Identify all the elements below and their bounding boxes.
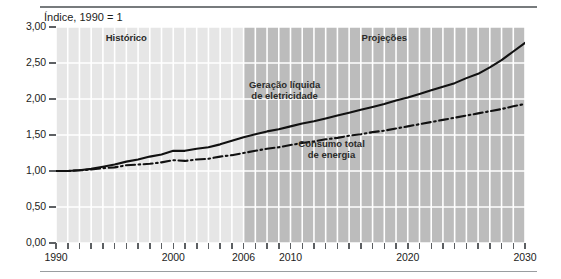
x-tick-mark bbox=[114, 243, 116, 249]
x-tick-mark bbox=[524, 243, 526, 249]
x-tick-label: 2006 bbox=[222, 251, 266, 263]
x-tick-mark bbox=[442, 243, 444, 249]
x-tick-mark bbox=[137, 243, 139, 249]
x-tick-mark bbox=[126, 243, 128, 249]
x-tick-mark bbox=[325, 243, 327, 249]
x-tick-mark bbox=[173, 243, 175, 249]
y-tick-label: 0,00 bbox=[16, 236, 46, 248]
y-tick-label: 2,00 bbox=[16, 92, 46, 104]
x-tick-mark bbox=[454, 243, 456, 249]
x-tick-mark bbox=[243, 243, 245, 249]
x-tick-mark bbox=[407, 243, 409, 249]
x-tick-mark bbox=[184, 243, 186, 249]
y-tick-mark bbox=[49, 26, 56, 28]
top-rule bbox=[40, 6, 537, 8]
chart-axis-title: Índice, 1990 = 1 bbox=[44, 11, 123, 23]
x-tick-mark bbox=[79, 243, 81, 249]
x-tick-mark bbox=[372, 243, 374, 249]
bottom-rule bbox=[40, 271, 537, 272]
x-tick-mark bbox=[149, 243, 151, 249]
y-tick-label: 3,00 bbox=[16, 20, 46, 32]
x-tick-mark bbox=[55, 243, 57, 249]
y-tick-label: 0,50 bbox=[16, 200, 46, 212]
y-tick-mark bbox=[49, 206, 56, 208]
y-tick-label: 1,50 bbox=[16, 128, 46, 140]
plot-area bbox=[56, 27, 525, 243]
x-tick-mark bbox=[466, 243, 468, 249]
series-label-line-2: de energia bbox=[277, 149, 387, 160]
series-label-line-2: de eletricidade bbox=[230, 90, 340, 101]
x-tick-mark bbox=[302, 243, 304, 249]
gridlines bbox=[56, 27, 525, 243]
x-tick-mark bbox=[90, 243, 92, 249]
series-label-geracao-liquida-de-eletricidade: Geração líquidade eletricidade bbox=[230, 79, 340, 101]
y-tick-mark bbox=[49, 134, 56, 136]
x-tick-mark bbox=[477, 243, 479, 249]
x-tick-mark bbox=[501, 243, 503, 249]
x-tick-mark bbox=[161, 243, 163, 249]
x-tick-mark bbox=[278, 243, 280, 249]
x-tick-mark bbox=[360, 243, 362, 249]
plot-svg bbox=[56, 27, 525, 243]
series-label-consumo-total-de-energia: Consumo totalde energia bbox=[277, 138, 387, 160]
x-tick-label: 2010 bbox=[269, 251, 313, 263]
y-tick-mark bbox=[49, 62, 56, 64]
x-tick-mark bbox=[513, 243, 515, 249]
x-tick-mark bbox=[290, 243, 292, 249]
x-tick-mark bbox=[102, 243, 104, 249]
x-tick-label: 2030 bbox=[503, 251, 547, 263]
y-tick-label: 2,50 bbox=[16, 56, 46, 68]
series-label-line-1: Consumo total bbox=[277, 138, 387, 149]
y-tick-mark bbox=[49, 170, 56, 172]
x-tick-mark bbox=[419, 243, 421, 249]
x-tick-mark bbox=[255, 243, 257, 249]
x-tick-mark bbox=[231, 243, 233, 249]
x-tick-mark bbox=[196, 243, 198, 249]
region-label-projecoes: Projeções bbox=[334, 32, 434, 43]
x-tick-label: 2020 bbox=[386, 251, 430, 263]
x-tick-mark bbox=[266, 243, 268, 249]
x-tick-mark bbox=[395, 243, 397, 249]
x-tick-mark bbox=[67, 243, 69, 249]
x-tick-mark bbox=[384, 243, 386, 249]
x-tick-label: 2000 bbox=[151, 251, 195, 263]
x-tick-mark bbox=[313, 243, 315, 249]
series-label-line-1: Geração líquida bbox=[230, 79, 340, 90]
x-tick-mark bbox=[489, 243, 491, 249]
x-tick-mark bbox=[219, 243, 221, 249]
chart-figure: Índice, 1990 = 1 0,000,501,001,502,002,5… bbox=[0, 0, 561, 279]
x-tick-mark bbox=[337, 243, 339, 249]
y-tick-label: 1,00 bbox=[16, 164, 46, 176]
y-tick-mark bbox=[49, 98, 56, 100]
x-tick-mark bbox=[431, 243, 433, 249]
x-tick-mark bbox=[348, 243, 350, 249]
x-tick-mark bbox=[208, 243, 210, 249]
x-tick-label: 1990 bbox=[34, 251, 78, 263]
region-label-historico: Histórico bbox=[76, 32, 176, 43]
